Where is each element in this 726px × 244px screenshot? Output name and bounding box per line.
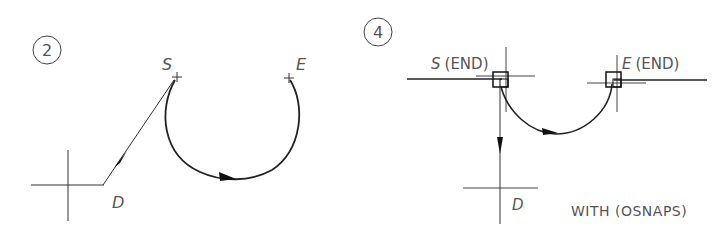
start-osnap-inner <box>500 79 508 87</box>
direction-line <box>103 80 174 185</box>
osnaps-caption: WITH (OSNAPS) <box>571 203 687 219</box>
direction-label: D <box>512 196 524 214</box>
end-snap-label: E(END) <box>622 55 679 73</box>
step-badge-4: 4 <box>364 18 392 46</box>
end-snap-mode: (END) <box>635 55 679 73</box>
end-point-marker <box>284 73 294 83</box>
end-label: E <box>622 55 632 73</box>
step-number: 2 <box>42 41 52 60</box>
direction-crosshair <box>31 150 104 221</box>
start-snap-label: S(END) <box>431 55 488 73</box>
diagram-canvas: 2 S E D 4 <box>0 0 726 244</box>
panel-4: 4 S(END) E(END) D <box>364 18 707 224</box>
panel-2: 2 S E D <box>31 36 307 221</box>
start-snap-mode: (END) <box>445 55 489 73</box>
step-number: 4 <box>373 23 383 42</box>
start-label: S <box>162 55 172 74</box>
arc-diagram: 2 S E D 4 <box>0 0 726 244</box>
step-badge-2: 2 <box>33 36 61 64</box>
arc-curve <box>165 80 299 179</box>
arc-curve <box>501 84 612 134</box>
direction-label: D <box>112 193 124 212</box>
end-label: E <box>296 55 307 74</box>
direction-arrow-icon <box>497 137 503 154</box>
start-label: S <box>431 55 441 73</box>
